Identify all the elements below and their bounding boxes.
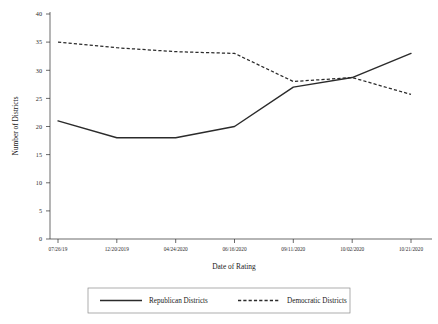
y-tick-label-10: 10: [36, 179, 42, 186]
x-axis-ticks: [58, 239, 411, 243]
x-tick-label-4: 09/11/2020: [281, 246, 305, 252]
legend-label-democratic: Democratic Districts: [287, 297, 347, 305]
y-axis-ticks: [46, 14, 50, 239]
x-tick-label-6: 10/21/2020: [399, 246, 423, 252]
x-tick-label-0: 07/26/19: [49, 246, 68, 252]
y-tick-label-5: 5: [39, 207, 42, 214]
series-line-democratic-districts: [58, 42, 411, 94]
line-chart-canvas: 40 35 30 25 20 15 10 5 0 Number of Distr…: [0, 0, 438, 324]
y-tick-label-30: 30: [36, 67, 42, 74]
x-tick-label-5: 10/02/2020: [340, 246, 364, 252]
y-tick-label-20: 20: [36, 123, 42, 130]
y-tick-label-25: 25: [36, 95, 42, 102]
chart-legend: Republican Districts Democratic District…: [88, 288, 350, 313]
legend-label-republican: Republican Districts: [149, 297, 208, 305]
chart-figure: 40 35 30 25 20 15 10 5 0 Number of Distr…: [0, 0, 438, 324]
y-axis-title: Number of Districts: [11, 96, 20, 155]
x-tick-label-2: 04/24/2020: [164, 246, 188, 252]
x-axis-title: Date of Rating: [212, 262, 256, 271]
y-tick-label-15: 15: [36, 151, 42, 158]
y-tick-label-35: 35: [36, 38, 42, 45]
series-line-republican-districts: [58, 53, 411, 137]
x-tick-label-1: 12/20/2019: [105, 246, 129, 252]
x-tick-label-3: 06/16/2020: [222, 246, 246, 252]
y-tick-label-0: 0: [39, 235, 42, 242]
y-tick-label-40: 40: [36, 10, 42, 17]
